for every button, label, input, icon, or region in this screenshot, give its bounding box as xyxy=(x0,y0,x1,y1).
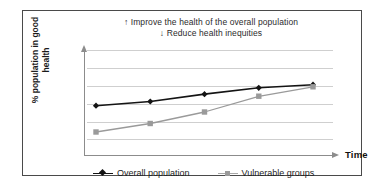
figure-frame: ↑ Improve the health of the overall popu… xyxy=(22,10,362,176)
y-axis-title-line-1: % population in good xyxy=(30,0,41,120)
x-axis-arrow-icon xyxy=(332,152,339,158)
chart-screenshot: ↑ Improve the health of the overall popu… xyxy=(0,0,383,189)
data-point-vulnerable-groups-2 xyxy=(202,109,207,114)
chart-legend: Overall population Vulnerable groups xyxy=(93,165,343,181)
data-point-overall-population-0 xyxy=(93,103,99,109)
legend-entry-overall-population: Overall population xyxy=(93,168,190,178)
x-axis-line xyxy=(84,155,334,156)
y-axis-title: % population in good health xyxy=(30,0,56,120)
data-point-vulnerable-groups-4 xyxy=(310,84,315,89)
chart-title: ↑ Improve the health of the overall popu… xyxy=(71,17,351,39)
y-axis-title-line-2: health xyxy=(41,0,52,120)
data-point-vulnerable-groups-3 xyxy=(256,94,261,99)
data-point-vulnerable-groups-0 xyxy=(93,129,98,134)
chart-title-line-1: ↑ Improve the health of the overall popu… xyxy=(71,17,351,28)
series-overall-population xyxy=(93,82,316,109)
data-point-overall-population-2 xyxy=(201,91,207,97)
legend-entry-vulnerable-groups: Vulnerable groups xyxy=(218,168,315,178)
chart-title-line-2: ↓ Reduce health inequities xyxy=(71,28,351,39)
legend-label-overall-population: Overall population xyxy=(117,168,190,178)
plot-area xyxy=(84,49,333,154)
legend-marker-diamond-icon xyxy=(93,169,113,178)
legend-label-vulnerable-groups: Vulnerable groups xyxy=(242,168,315,178)
data-point-vulnerable-groups-1 xyxy=(148,121,153,126)
legend-marker-square-icon xyxy=(218,169,238,178)
series-layer xyxy=(84,49,333,154)
data-point-overall-population-1 xyxy=(147,98,153,104)
x-axis-title: Time xyxy=(345,149,368,160)
data-point-overall-population-3 xyxy=(256,85,262,91)
